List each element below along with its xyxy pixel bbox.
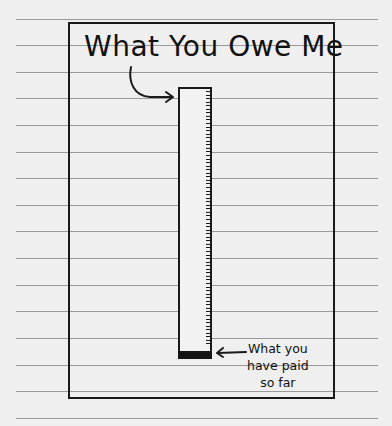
paid-arrow-icon <box>218 352 246 353</box>
notebook-paper: What You Owe Me What you have paid so fa… <box>0 0 392 426</box>
annotation-line-3: so far <box>247 374 309 391</box>
paid-annotation: What you have paid so far <box>247 340 309 391</box>
annotation-line-1: What you <box>247 340 309 357</box>
annotation-line-2: have paid <box>247 357 309 374</box>
arrows <box>0 0 392 426</box>
